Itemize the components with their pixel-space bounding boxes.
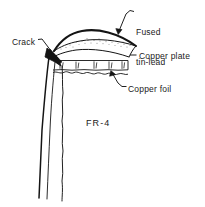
label-fused-tin-lead: Fused tin-lead: [136, 7, 165, 87]
fr4-substrate-layer: [53, 72, 128, 75]
fr4-top-ragged-boundary: [53, 72, 128, 75]
copper-foil-hatch-ticks: [60, 61, 125, 69]
fused-tin-lead-arrowhead: [116, 29, 122, 35]
label-crack: Crack: [12, 37, 35, 47]
copper-foil-leader: [113, 74, 127, 87]
crack-line-right-wall: [62, 66, 63, 201]
figure-cracked-plated-through-hole: Fused tin-lead Copper plate Copper foil …: [0, 0, 205, 207]
copper-foil-arrowhead: [110, 71, 116, 77]
crack-line-outer-left: [39, 57, 49, 198]
crack-line-inner-left: [47, 62, 55, 199]
copper-foil-bottom-edge: [53, 70, 128, 71]
label-copper-plate: Copper plate: [139, 51, 190, 61]
copper-foil-layer: [53, 61, 128, 71]
copper-plate-layer: [53, 46, 136, 57]
tin-lead-top-curve: [54, 30, 136, 51]
copper-plate-bottom-curve: [53, 49, 129, 57]
crack-feature: [39, 48, 63, 201]
label-copper-foil: Copper foil: [128, 84, 171, 94]
label-fr4-substrate: FR-4: [86, 118, 110, 128]
fused-tin-lead-leader: [119, 11, 134, 32]
label-fused-tin-lead-line1: Fused: [136, 27, 165, 37]
leader-lines: [38, 11, 137, 87]
technical-drawing-canvas: [0, 0, 205, 207]
fused-tin-lead-layer: [54, 30, 136, 51]
